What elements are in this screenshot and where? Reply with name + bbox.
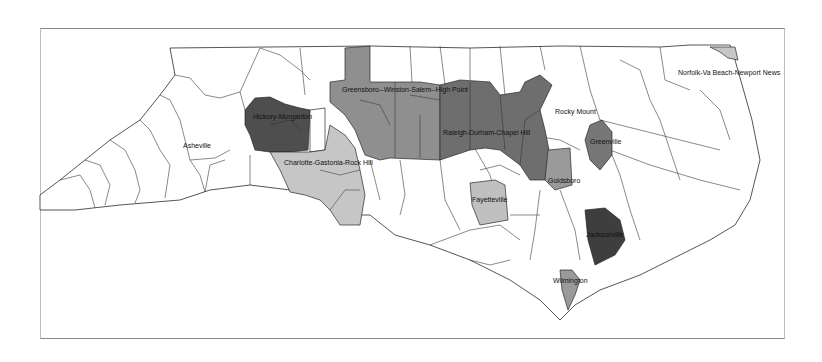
- nc-map: Asheville Hickory-Morganton Greensboro--…: [0, 0, 822, 362]
- label-wilmington: Wilmington: [553, 277, 588, 285]
- label-hickory: Hickory-Morganton: [253, 113, 312, 121]
- label-charlotte: Charlotte-Gastonia-Rock Hill: [284, 159, 373, 166]
- label-goldsboro: Goldsboro: [548, 177, 580, 184]
- label-norfolk: Norfolk-Va Beach-Newport News: [678, 69, 781, 77]
- label-greenville: Greenville: [590, 138, 622, 145]
- label-jacksonville: Jacksonville: [586, 231, 624, 238]
- label-raleigh: Raleigh-Durham-Chapel Hill: [443, 129, 531, 137]
- region-iredell: [310, 108, 325, 152]
- label-greensboro: Greensboro--Winston-Salem--High Point: [342, 86, 468, 94]
- label-rocky-mount: Rocky Mount: [555, 108, 596, 116]
- label-fayetteville: Fayetteville: [472, 196, 508, 204]
- label-asheville: Asheville: [183, 142, 211, 149]
